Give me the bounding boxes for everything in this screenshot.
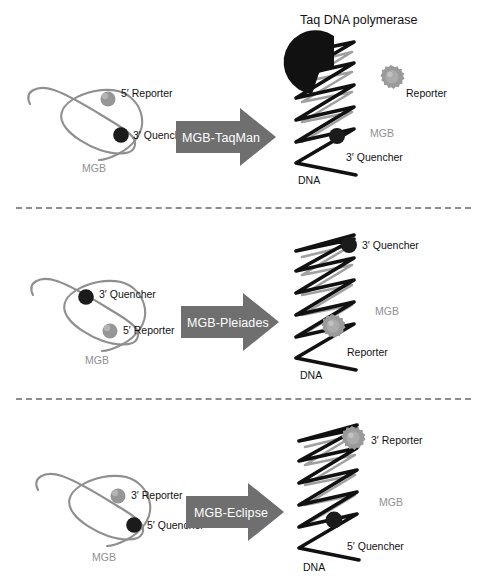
panel-mgb-taqman: Taq DNA polymerase 5′ Reporter 3′ Quench… <box>0 0 489 207</box>
bound-reporter-label: 3′ Reporter <box>371 435 423 446</box>
taq-polymerase-icon <box>284 30 334 94</box>
bound-quencher-marker-icon <box>326 512 343 529</box>
bound-quencher-label: 3′ Quencher <box>346 152 403 163</box>
bound-mgb-label: MGB <box>370 128 394 139</box>
panel-mgb-pleiades: 3′ Quencher 5′ Reporter MGB MGB-Pleiades… <box>0 207 489 397</box>
released-reporter-label: Reporter <box>406 88 447 99</box>
bound-complex-taqman <box>0 0 489 207</box>
bound-quencher-label: 3′ Quencher <box>362 240 419 251</box>
bound-mgb-label: MGB <box>379 497 403 508</box>
dna-label-eclipse: DNA <box>303 562 325 573</box>
bound-mgb-label: MGB <box>375 306 399 317</box>
dna-label-taqman: DNA <box>298 175 320 186</box>
bound-quencher-label: 5′ Quencher <box>347 541 404 552</box>
bound-quencher-marker-icon <box>341 237 357 253</box>
released-reporter-starburst-icon <box>380 65 404 89</box>
panel-mgb-eclipse: 3′ Reporter 5′ Quencher MGB MGB-Eclipse … <box>0 397 489 586</box>
bound-reporter-label: Reporter <box>347 347 388 358</box>
dna-label-pleiades: DNA <box>300 370 322 381</box>
bound-quencher-marker-icon <box>329 128 345 144</box>
bound-complex-eclipse <box>0 397 489 586</box>
bound-complex-pleiades <box>0 207 489 397</box>
